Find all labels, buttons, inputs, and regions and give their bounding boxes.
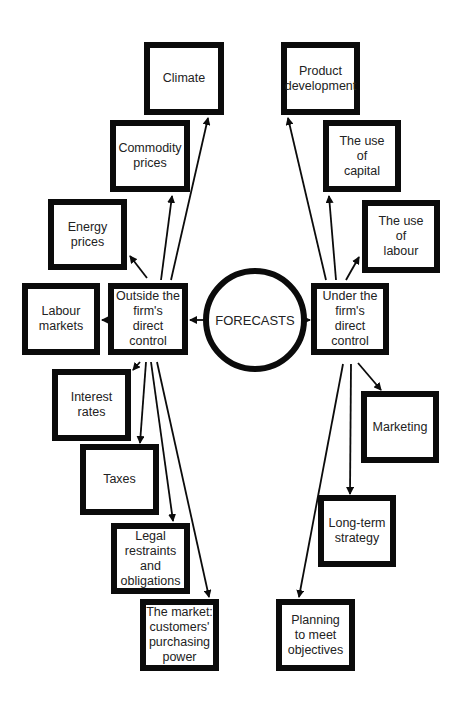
- node-label: Labour markets: [39, 304, 83, 334]
- node-label: The market: customers' purchasing power: [146, 605, 213, 665]
- outside-control-label: Outside the firm's direct control: [116, 289, 180, 349]
- node-label: Product development: [285, 64, 357, 94]
- node-label: Taxes: [103, 472, 136, 487]
- node-market-purchasing-power: The market: customers' purchasing power: [140, 599, 219, 671]
- node-taxes: Taxes: [80, 444, 159, 515]
- forecasts-label: FORECASTS: [215, 313, 294, 328]
- node-label: Long-term strategy: [329, 516, 386, 546]
- node-commodity-prices: Commodity prices: [110, 120, 190, 192]
- outside-control-hub: Outside the firm's direct control: [108, 283, 188, 355]
- node-label: The use of capital: [339, 134, 384, 179]
- forecasts-center-node: FORECASTS: [203, 268, 307, 372]
- node-climate: Climate: [144, 42, 224, 115]
- node-label: Planning to meet objectives: [288, 613, 344, 658]
- node-labour-markets: Labour markets: [22, 283, 100, 355]
- node-label: The use of labour: [378, 214, 423, 259]
- node-product-development: Product development: [281, 42, 360, 115]
- node-label: Energy prices: [68, 220, 108, 250]
- node-legal-restraints: Legal restraints and obligations: [111, 523, 190, 594]
- under-control-hub: Under the firm's direct control: [311, 283, 389, 355]
- node-label: Interest rates: [71, 390, 113, 420]
- node-use-of-capital: The use of capital: [323, 120, 401, 192]
- node-label: Marketing: [373, 420, 428, 435]
- node-energy-prices: Energy prices: [48, 199, 127, 270]
- node-label: Legal restraints and obligations: [121, 529, 181, 589]
- node-use-of-labour: The use of labour: [362, 200, 440, 273]
- node-label: Commodity prices: [118, 141, 181, 171]
- node-marketing: Marketing: [361, 391, 439, 463]
- under-control-label: Under the firm's direct control: [323, 289, 378, 349]
- node-long-term-strategy: Long-term strategy: [318, 495, 396, 567]
- node-planning-objectives: Planning to meet objectives: [276, 599, 355, 671]
- forecasts-diagram: FORECASTS Outside the firm's direct cont…: [0, 0, 466, 703]
- node-label: Climate: [163, 71, 205, 86]
- node-interest-rates: Interest rates: [52, 369, 131, 441]
